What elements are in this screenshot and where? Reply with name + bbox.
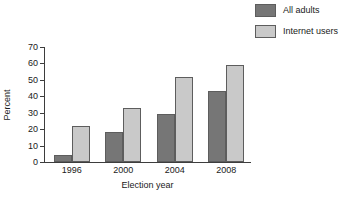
y-tick-mark (40, 96, 44, 97)
legend-label-all-adults: All adults (283, 6, 320, 15)
x-axis-category-label: 1996 (62, 166, 82, 175)
bar (72, 126, 90, 162)
bar (54, 155, 72, 162)
bar (105, 132, 123, 162)
y-tick-mark (40, 162, 44, 163)
x-axis-title: Election year (44, 181, 251, 190)
bar (123, 108, 141, 162)
y-tick-label: 10 (28, 141, 38, 150)
y-tick-label: 0 (33, 158, 38, 167)
legend-swatch-all-adults (255, 4, 276, 17)
x-axis-category-label: 2004 (165, 166, 185, 175)
y-tick-label: 20 (28, 125, 38, 134)
bar (208, 91, 226, 162)
y-tick-label: 30 (28, 108, 38, 117)
legend-swatch-internet-users (255, 25, 276, 38)
y-tick-mark (40, 47, 44, 48)
y-tick-mark (40, 113, 44, 114)
x-axis-category-label: 2000 (113, 166, 133, 175)
y-tick-mark (40, 129, 44, 130)
legend-item-all-adults: All adults (255, 2, 353, 19)
legend-item-internet-users: Internet users (255, 23, 353, 40)
y-tick-mark (40, 146, 44, 147)
bar (157, 114, 175, 162)
x-axis-category-label: 2008 (216, 166, 236, 175)
chart-legend: All adults Internet users (255, 2, 353, 44)
y-axis-title: Percent (3, 89, 12, 120)
plot-area: 010203040506070 (44, 47, 250, 162)
y-tick-label: 40 (28, 92, 38, 101)
bar (175, 77, 193, 162)
y-tick-label: 60 (28, 59, 38, 68)
x-axis-line (44, 162, 251, 163)
bar (226, 65, 244, 162)
y-tick-mark (40, 80, 44, 81)
y-tick-label: 70 (28, 43, 38, 52)
y-tick-mark (40, 63, 44, 64)
bar-chart-figure: All adults Internet users 01020304050607… (0, 0, 353, 200)
y-tick-label: 50 (28, 75, 38, 84)
legend-label-internet-users: Internet users (283, 27, 338, 36)
